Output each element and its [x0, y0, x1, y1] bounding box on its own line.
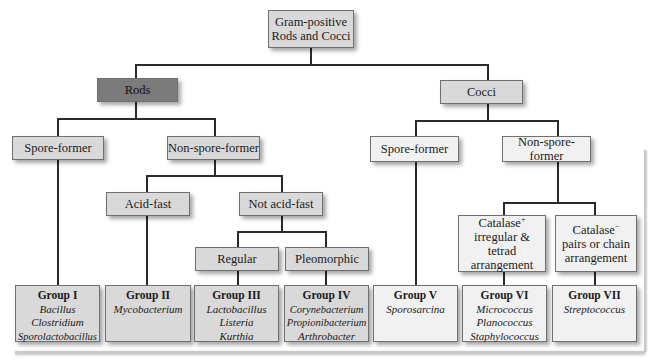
connector — [415, 120, 417, 136]
node-label-line1: Catalase+ — [479, 216, 526, 230]
group-6-node: Group VI Micrococcus Planococcus Staphyl… — [462, 285, 547, 342]
connector — [237, 271, 239, 285]
node-label-line2: pairs or chain — [562, 237, 630, 251]
node-label-line3: arrangement — [471, 258, 533, 272]
node-label: Acid-fast — [125, 197, 172, 211]
cocci-non-spore-former-node: Non-spore-former — [502, 136, 591, 162]
group-title: Group II — [106, 289, 190, 303]
species: Listeria — [195, 316, 278, 330]
species: Sporolactobacillus — [16, 330, 99, 344]
node-label: Regular — [217, 252, 257, 266]
node-label: Pleomorphic — [295, 252, 359, 266]
species: Arthrobacter — [285, 330, 368, 344]
acid-fast-node: Acid-fast — [106, 192, 190, 216]
node-label-line2: irregular & tetrad — [459, 230, 545, 258]
connector — [135, 64, 137, 78]
rods-non-spore-former-node: Non-spore-former — [167, 136, 260, 160]
group-title: Group VI — [463, 289, 546, 303]
cocci-label: Cocci — [467, 85, 496, 99]
node-label-line1: Catalase− — [573, 223, 620, 237]
root-node: Gram-positive Rods and Cocci — [268, 10, 354, 48]
connector — [57, 118, 215, 120]
group-4-node: Group IV Corynebacterium Propionibacteri… — [284, 285, 369, 342]
cocci-spore-former-node: Spore-former — [370, 136, 459, 162]
connector — [415, 120, 558, 122]
group-2-node: Group II Mycobacterium — [105, 285, 191, 342]
connector — [237, 231, 239, 247]
node-label: Not acid-fast — [249, 197, 314, 211]
connector — [237, 231, 326, 233]
connector — [135, 64, 488, 66]
connector — [415, 162, 417, 285]
rods-spore-former-node: Spore-former — [12, 136, 104, 160]
species: Propionibacterium — [285, 316, 368, 330]
root-label-line2: Rods and Cocci — [271, 29, 350, 43]
group-7-node: Group VII Streptococcus — [552, 285, 637, 342]
group-3-node: Group III Lactobacillus Listeria Kurthia — [194, 285, 279, 342]
frame-border-bottom — [15, 351, 645, 354]
species: Sporosarcina — [374, 303, 457, 317]
connector — [503, 202, 505, 215]
connector — [57, 118, 59, 136]
connector — [214, 118, 216, 136]
node-label: Non-spore-former — [503, 135, 590, 163]
cocci-node: Cocci — [440, 80, 523, 104]
connector — [146, 175, 282, 177]
not-acid-fast-node: Not acid-fast — [239, 192, 323, 216]
connector — [487, 104, 489, 120]
connector — [214, 160, 216, 175]
rods-label: Rods — [125, 83, 151, 97]
species: Clostridium — [16, 316, 99, 330]
species: Planococcus — [463, 316, 546, 330]
group-5-node: Group V Sporosarcina — [373, 285, 458, 342]
node-label: Non-spore-former — [168, 141, 259, 155]
connector — [594, 202, 596, 215]
species: Micrococcus — [463, 303, 546, 317]
connector — [557, 162, 559, 202]
species: Bacillus — [16, 303, 99, 317]
catalase-negative-node: Catalase− pairs or chain arrangement — [555, 215, 637, 272]
connector — [594, 272, 596, 285]
connector — [310, 48, 312, 64]
connector — [503, 202, 595, 204]
connector — [487, 64, 489, 80]
species: Corynebacterium — [285, 303, 368, 317]
frame-border-right — [644, 150, 646, 352]
group-1-node: Group I Bacillus Clostridium Sporolactob… — [15, 285, 100, 342]
group-title: Group III — [195, 289, 278, 303]
connector — [146, 175, 148, 192]
connector — [325, 231, 327, 247]
connector — [135, 102, 137, 118]
root-label-line1: Gram-positive — [275, 15, 347, 29]
group-title: Group VII — [553, 289, 636, 303]
node-label: Spore-former — [24, 141, 91, 155]
catalase-positive-node: Catalase+ irregular & tetrad arrangement — [458, 215, 546, 272]
species: Lactobacillus — [195, 303, 278, 317]
species: Kurthia — [195, 330, 278, 344]
connector — [281, 175, 283, 192]
species: Staphylococcus — [463, 330, 546, 344]
node-label: Spore-former — [381, 142, 448, 156]
regular-node: Regular — [195, 247, 279, 271]
rods-node: Rods — [97, 78, 178, 102]
species: Streptococcus — [553, 303, 636, 317]
connector — [281, 216, 283, 231]
group-title: Group IV — [285, 289, 368, 303]
connector — [503, 272, 505, 285]
group-title: Group V — [374, 289, 457, 303]
node-label-line3: arrangement — [565, 251, 627, 265]
group-title: Group I — [16, 289, 99, 303]
connector — [325, 271, 327, 285]
species: Mycobacterium — [106, 303, 190, 317]
connector — [146, 216, 148, 285]
connector — [57, 160, 59, 285]
connector — [557, 120, 559, 136]
pleomorphic-node: Pleomorphic — [285, 247, 369, 271]
